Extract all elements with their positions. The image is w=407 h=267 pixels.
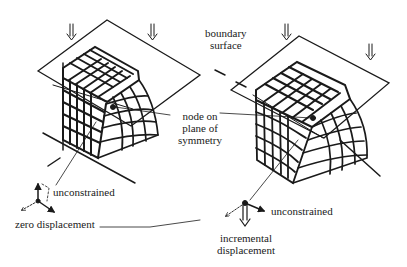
axis-triad-icon: [22, 184, 54, 212]
zero-displacement-label: zero displacement: [15, 218, 95, 230]
down-arrow-icon: [366, 44, 375, 60]
down-arrow-icon: [240, 205, 250, 226]
down-arrow-icon: [148, 24, 157, 40]
axis-triad-icon: [226, 201, 264, 227]
down-arrow-icon: [282, 24, 291, 40]
label-line: plane of: [178, 122, 222, 134]
label-line: symmetry: [178, 134, 222, 146]
label-line: boundary: [205, 27, 247, 39]
down-arrow-icon: [67, 24, 76, 40]
label-line: displacement: [217, 244, 275, 256]
symmetry-line: [43, 133, 135, 183]
incremental-displacement-label: incremental displacement: [217, 232, 275, 256]
label-line: incremental: [217, 232, 275, 244]
symmetry-line: [340, 140, 380, 176]
boundary-surface-label: boundary surface: [205, 27, 247, 51]
label-line: node on: [178, 110, 222, 122]
unconstrained-label-right: unconstrained: [271, 205, 333, 217]
mesh-top-face: [63, 47, 139, 102]
label-line: surface: [205, 39, 247, 51]
node-symmetry-label: node on plane of symmetry: [178, 110, 222, 146]
unconstrained-label-left: unconstrained: [53, 186, 115, 198]
right-panel: [215, 24, 389, 226]
boundary-surface-plane: [231, 36, 389, 138]
